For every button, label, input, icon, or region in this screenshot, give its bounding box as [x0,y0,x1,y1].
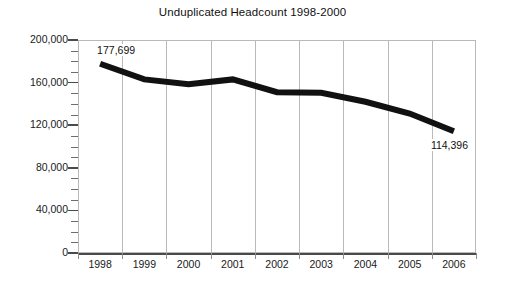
y-tick-label: 80,000 [2,161,68,173]
y-tick-minor [71,232,78,233]
y-tick-label: 40,000 [2,203,68,215]
chart-container: Unduplicated Headcount 1998-2000 040,000… [0,0,505,289]
y-tick-minor [71,178,78,179]
plot-frame [78,40,476,253]
end-value-label: 114,396 [430,139,469,151]
x-tick [476,253,477,259]
y-tick-label: 120,000 [2,118,68,130]
x-tick-label: 2005 [388,258,432,270]
x-axis-line [78,253,477,255]
y-tick-minor [71,61,78,62]
x-tick-label: 1999 [122,258,166,270]
plot-area [78,40,476,253]
y-tick-minor [71,104,78,105]
x-tick-label: 2000 [167,258,211,270]
start-value-label: 177,699 [96,44,136,56]
y-tick-major [68,39,78,41]
gridline-vertical [388,40,389,253]
y-tick-minor [71,242,78,243]
y-tick-minor [71,200,78,201]
y-tick-minor [71,157,78,158]
chart-title: Unduplicated Headcount 1998-2000 [0,6,505,18]
y-tick-major [68,124,78,126]
y-tick-minor [71,72,78,73]
gridline-vertical [211,40,212,253]
x-tick-label: 2006 [432,258,476,270]
y-tick-major [68,252,78,254]
x-tick-label: 2001 [211,258,255,270]
y-axis-labels: 040,00080,000120,000160,000200,000 [0,0,68,289]
gridline-vertical [299,40,300,253]
x-tick-label: 2002 [255,258,299,270]
y-tick-minor [71,221,78,222]
y-tick-label: 0 [2,246,68,258]
y-tick-label: 160,000 [2,76,68,88]
y-tick-minor [71,51,78,52]
y-tick-major [68,210,78,212]
y-tick-minor [71,136,78,137]
x-tick-label: 1998 [78,258,122,270]
y-tick-label: 200,000 [2,33,68,45]
x-tick-label: 2003 [299,258,343,270]
gridline-vertical [166,40,167,253]
gridline-vertical [343,40,344,253]
y-tick-major [68,167,78,169]
x-tick-label: 2004 [343,258,387,270]
y-tick-minor [71,93,78,94]
gridline-vertical [122,40,123,253]
y-tick-minor [71,189,78,190]
y-tick-major [68,82,78,84]
gridline-vertical [255,40,256,253]
y-tick-minor [71,115,78,116]
y-tick-minor [71,147,78,148]
